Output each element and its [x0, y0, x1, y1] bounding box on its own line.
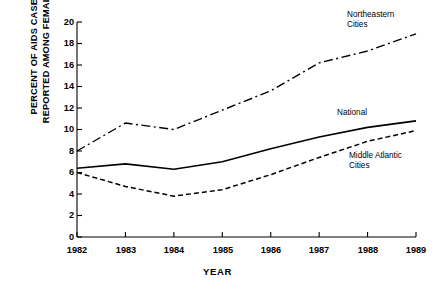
- line-middle-atlantic-cities: [77, 131, 416, 197]
- data-series: [77, 34, 416, 196]
- y-tick-marks: [77, 22, 82, 237]
- axes: [77, 22, 416, 237]
- chart-plot-area: [0, 0, 435, 290]
- x-tick-marks: [77, 232, 416, 237]
- line-national: [77, 121, 416, 169]
- aids-cases-line-chart: PERCENT OF AIDS CASES REPORTED AMONG FEM…: [0, 0, 435, 290]
- line-northeastern-cities: [77, 34, 416, 151]
